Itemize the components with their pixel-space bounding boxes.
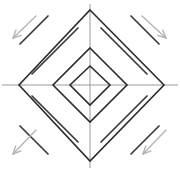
diagram-svg bbox=[0, 0, 180, 171]
diagram-canvas bbox=[0, 0, 180, 171]
